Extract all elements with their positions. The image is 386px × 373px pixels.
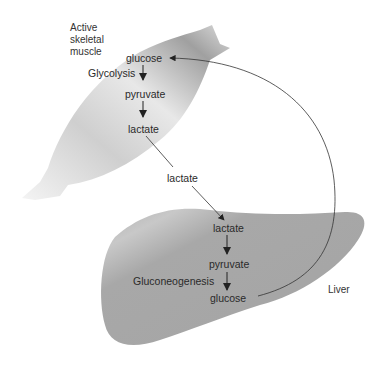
liver-glucose-label: glucose — [210, 292, 246, 304]
muscle-label-line-1: Active — [70, 22, 104, 34]
glycolysis-label: Glycolysis — [88, 67, 135, 79]
liver-pyruvate-label: pyruvate — [209, 258, 249, 270]
muscle-label-line-3: muscle — [70, 46, 104, 58]
muscle-region-label: Active skeletal muscle — [70, 22, 104, 58]
cori-cycle-diagram — [0, 0, 386, 373]
muscle-pyruvate-label: pyruvate — [125, 88, 165, 100]
liver-lactate-label: lactate — [213, 222, 244, 234]
blood-lactate-label: lactate — [167, 172, 198, 184]
muscle-label-line-2: skeletal — [70, 34, 104, 46]
liver-region-label: Liver — [328, 284, 350, 296]
gluconeogenesis-label: Gluconeogenesis — [133, 275, 214, 287]
muscle-lactate-label: lactate — [128, 123, 159, 135]
muscle-glucose-label: glucose — [126, 52, 162, 64]
lactate-out-line — [146, 136, 173, 167]
